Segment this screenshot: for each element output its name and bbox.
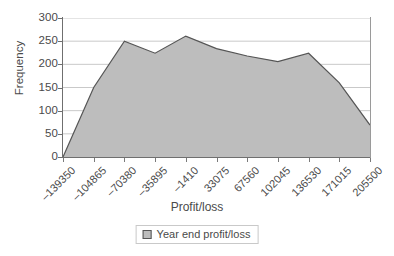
y-axis-tick-label: 100 (24, 105, 58, 116)
y-axis-tick-label: 150 (24, 82, 58, 93)
y-axis-tick-mark (58, 18, 62, 19)
plot-right-border (370, 17, 371, 158)
x-axis-tick-mark (217, 158, 218, 162)
legend-item-label: Year end profit/loss (157, 228, 251, 240)
legend-swatch-icon (143, 230, 152, 239)
y-axis-tick-label: 300 (24, 12, 58, 23)
y-axis-line (62, 17, 63, 158)
frequency-area-chart: 300250200150100500 Frequency –139350–104… (0, 0, 394, 256)
x-axis-tick-mark (247, 158, 248, 162)
plot-svg (63, 18, 370, 157)
y-axis-tick-mark (58, 41, 62, 42)
y-axis-tick-label: 200 (24, 58, 58, 69)
x-axis-tick-mark (186, 158, 187, 162)
x-axis-title: Profit/loss (0, 200, 394, 214)
chart-legend: Year end profit/loss (136, 225, 259, 244)
y-axis-tick-mark (58, 157, 62, 158)
x-axis-tick-mark (63, 158, 64, 162)
series-area-year-end-profit-loss (63, 36, 370, 157)
x-axis-tick-mark (370, 158, 371, 162)
y-axis-tick-mark (58, 111, 62, 112)
x-axis-tick-mark (309, 158, 310, 162)
y-axis-tick-label: 50 (24, 128, 58, 139)
x-axis-tick-mark (124, 158, 125, 162)
x-axis-tick-mark (339, 158, 340, 162)
x-axis-tick-mark (155, 158, 156, 162)
x-axis-tick-mark (94, 158, 95, 162)
y-axis-tick-mark (58, 134, 62, 135)
y-axis-tick-label: 250 (24, 35, 58, 46)
x-axis-tick-mark (278, 158, 279, 162)
y-axis-tick-mark (58, 88, 62, 89)
y-axis-tick-label: 0 (24, 151, 58, 162)
plot-area (63, 18, 370, 157)
y-axis-tick-mark (58, 64, 62, 65)
y-axis-title: Frequency (13, 13, 25, 123)
